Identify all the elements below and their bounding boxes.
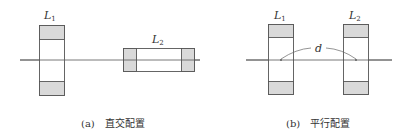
coil-label-l2-b: L2 bbox=[349, 10, 361, 23]
coil-label-l2-a: L2 bbox=[152, 34, 164, 47]
coil-winding-top bbox=[269, 25, 294, 38]
coil-center-point bbox=[280, 59, 282, 61]
coil-l2-b bbox=[343, 25, 392, 95]
coil-winding-bottom bbox=[344, 82, 369, 95]
coil-winding-bottom bbox=[40, 82, 65, 96]
diagram-canvas bbox=[0, 0, 404, 137]
coil-l1-a bbox=[20, 26, 65, 96]
figure: L1 L2 (a) 直交配置 L1 L2 d (b) 平行配置 bbox=[0, 0, 404, 137]
caption-a: (a) 直交配置 bbox=[81, 119, 145, 129]
coil-winding-top bbox=[344, 25, 369, 38]
coil-l2-a bbox=[123, 49, 200, 72]
panel-a bbox=[20, 26, 200, 96]
coil-label-l1-b: L1 bbox=[274, 10, 286, 23]
coil-label-l1-a: L1 bbox=[44, 10, 56, 23]
distance-label: d bbox=[315, 43, 322, 54]
caption-b: (b) 平行配置 bbox=[286, 119, 350, 129]
coil-winding-bottom bbox=[269, 82, 294, 95]
coil-center-point bbox=[355, 59, 357, 61]
coil-winding-top bbox=[40, 26, 65, 40]
panel-b bbox=[246, 25, 392, 95]
coil-l1-b bbox=[246, 25, 294, 95]
